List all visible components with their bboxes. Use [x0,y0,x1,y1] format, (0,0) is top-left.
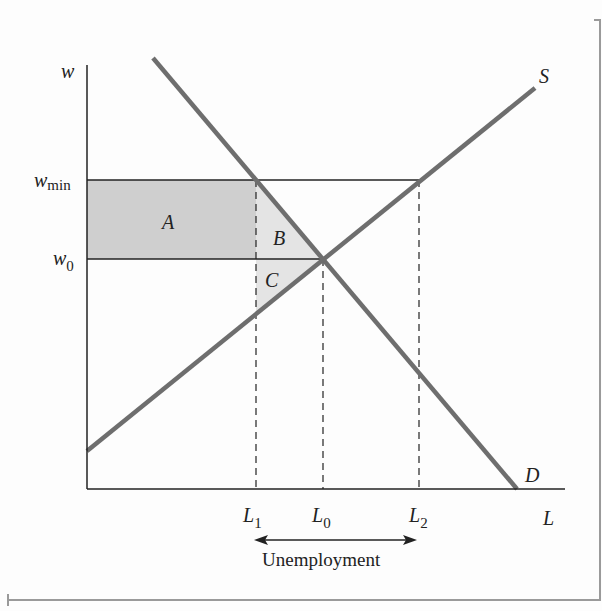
w-min-label: wmin [34,169,71,193]
region-b-label: B [273,227,285,249]
supply-curve [87,88,535,451]
supply-label: S [539,65,549,87]
minimum-wage-diagram: w L wmin w0 L1 L0 L2 D S A B C Unemploym… [0,0,602,611]
demand-label: D [524,464,540,486]
unemployment-label: Unemployment [262,549,381,570]
w0-label: w0 [53,247,74,274]
l0-label: L0 [311,504,331,531]
region-c-label: C [265,269,279,291]
y-axis-label: w [61,60,75,82]
l2-label: L2 [408,504,428,531]
l1-label: L1 [242,504,262,531]
demand-curve [153,58,517,489]
region-a-label: A [160,211,175,233]
x-axis-label: L [542,507,554,529]
